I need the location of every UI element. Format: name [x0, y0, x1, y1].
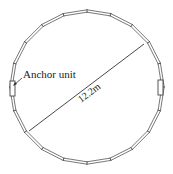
anchor-unit-label: Anchor unit	[23, 68, 76, 80]
anchor-unit-left	[10, 81, 15, 96]
diameter-label: 12.2m	[76, 80, 103, 104]
ring-diagram: Anchor unit 12.2m	[0, 0, 173, 174]
anchor-unit-right	[158, 80, 163, 95]
